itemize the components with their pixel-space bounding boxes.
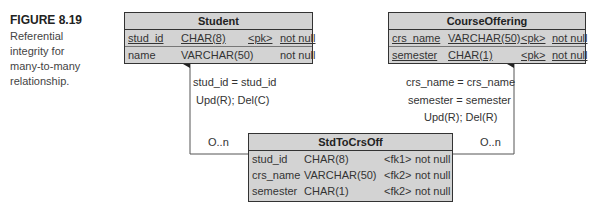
attribute-row: stud_id CHAR(8) <fk1> not null	[249, 151, 452, 167]
column-key: <pk>	[521, 30, 545, 46]
entity-student[interactable]: Student stud_id CHAR(8) <pk> not null na…	[124, 12, 313, 64]
column-type: VARCHAR(50)	[181, 47, 254, 63]
attribute-row: semester CHAR(1) <pk> not null	[389, 47, 585, 63]
column-key: <fk1>	[384, 151, 412, 167]
column-key: <fk2>	[384, 167, 412, 183]
entity-std-to-crs-off[interactable]: StdToCrsOff stud_id CHAR(8) <fk1> not nu…	[248, 133, 453, 202]
entity-title: CourseOffering	[389, 13, 585, 30]
column-null: not null	[415, 183, 450, 199]
column-null: not null	[415, 167, 450, 183]
column-name: crs_name	[252, 167, 300, 183]
right-join-condition-2: semester = semester	[408, 94, 511, 106]
column-null: not null	[552, 30, 587, 46]
entity-title: Student	[125, 13, 312, 30]
column-name: stud_id	[128, 30, 163, 46]
column-key: <pk>	[248, 30, 272, 46]
column-name: crs_name	[392, 30, 440, 46]
attribute-row: crs_name VARCHAR(50) <pk> not null	[389, 30, 585, 47]
column-name: name	[128, 47, 156, 63]
right-integrity-rule: Upd(R); Del(R)	[424, 111, 497, 123]
column-name: semester	[252, 183, 297, 199]
column-null: not null	[280, 47, 315, 63]
column-type: CHAR(8)	[181, 30, 226, 46]
column-null: not null	[280, 30, 315, 46]
column-type: VARCHAR(50)	[304, 167, 377, 183]
column-type: CHAR(1)	[448, 47, 493, 63]
attribute-row: semester CHAR(1) <fk2> not null	[249, 183, 452, 199]
attribute-row: crs_name VARCHAR(50) <fk2> not null	[249, 167, 452, 183]
attribute-row: name VARCHAR(50) not null	[125, 47, 312, 63]
right-cardinality: O..n	[480, 136, 501, 148]
column-type: VARCHAR(50)	[448, 30, 521, 46]
entity-title: StdToCrsOff	[249, 134, 452, 151]
column-name: semester	[392, 47, 437, 63]
column-null: not null	[415, 151, 450, 167]
right-join-condition-1: crs_name = crs_name	[406, 76, 515, 88]
column-type: CHAR(1)	[304, 183, 349, 199]
column-key: <pk>	[521, 47, 545, 63]
left-join-condition: stud_id = stud_id	[193, 76, 276, 88]
attribute-row: stud_id CHAR(8) <pk> not null	[125, 30, 312, 47]
entity-course-offering[interactable]: CourseOffering crs_name VARCHAR(50) <pk>…	[388, 12, 586, 64]
column-null: not null	[552, 47, 587, 63]
left-cardinality: O..n	[208, 136, 229, 148]
column-key: <fk2>	[384, 183, 412, 199]
column-name: stud_id	[252, 151, 287, 167]
left-integrity-rule: Upd(R); Del(C)	[196, 94, 269, 106]
column-type: CHAR(8)	[304, 151, 349, 167]
